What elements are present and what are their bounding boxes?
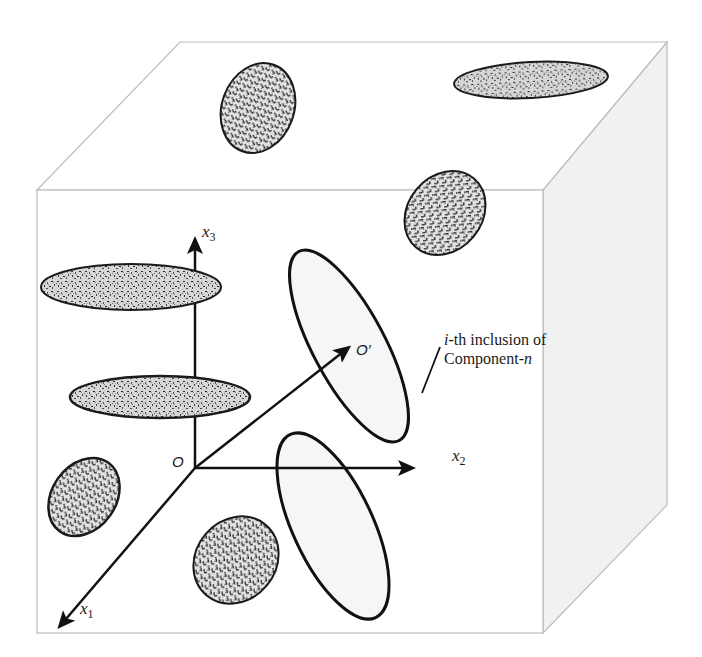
annotation-line-2: Component-n bbox=[444, 349, 546, 368]
rve-cube-diagram: x3 x2 x1 O O′ bbox=[0, 0, 702, 657]
inclusion-x3-lower bbox=[70, 376, 250, 418]
annotation-component-n: n bbox=[524, 350, 532, 367]
origin-label: O bbox=[172, 453, 184, 470]
inclusion-x3-upper bbox=[41, 264, 221, 310]
ith-inclusion-annotation: i-th inclusion of Component-n bbox=[444, 330, 546, 368]
annotation-line-1: i-th inclusion of bbox=[444, 330, 546, 349]
local-origin-label: O′ bbox=[356, 341, 372, 358]
annotation-line-2-text: Component- bbox=[444, 350, 524, 367]
annotation-line-1-text: -th inclusion of bbox=[448, 331, 546, 348]
